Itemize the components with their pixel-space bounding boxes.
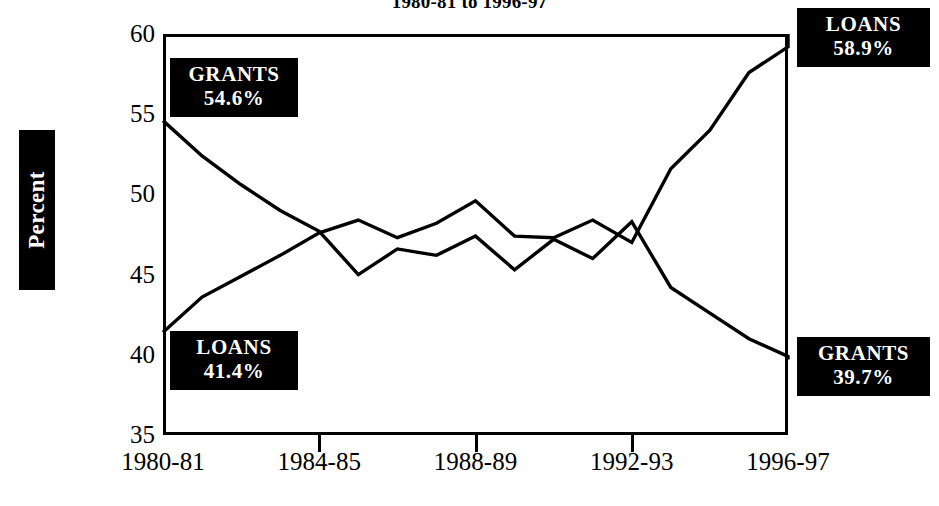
callout-grants-end: GRANTS 39.7% — [797, 337, 930, 396]
y-axis-tick-labels: 354045505560 — [95, 0, 155, 506]
y-axis-title-label: Percent — [24, 171, 50, 249]
callout-grants-start: GRANTS 54.6% — [170, 58, 298, 117]
chart-container: 1980-81 to 1996-97 Percent 354045505560 … — [0, 0, 939, 506]
x-tick-label-1996-97: 1996-97 — [713, 448, 863, 476]
callout-grants-end-name: GRANTS — [809, 342, 918, 366]
x-tick-label-1984-85: 1984-85 — [244, 448, 394, 476]
y-tick-45: 45 — [99, 262, 155, 287]
callout-loans-end-name: LOANS — [809, 13, 918, 37]
callout-grants-start-value: 54.6% — [182, 87, 286, 111]
callout-loans-end-value: 58.9% — [809, 37, 918, 61]
x-tick-label-1992-93: 1992-93 — [557, 448, 707, 476]
callout-grants-start-name: GRANTS — [182, 63, 286, 87]
callout-loans-start-name: LOANS — [182, 336, 286, 360]
y-tick-60: 60 — [99, 21, 155, 46]
callout-loans-start-value: 41.4% — [182, 360, 286, 384]
y-tick-55: 55 — [99, 101, 155, 126]
y-tick-35: 35 — [99, 422, 155, 447]
y-axis-title: Percent — [19, 130, 55, 290]
x-tick-mark-1988-89 — [475, 435, 478, 452]
x-tick-label-1988-89: 1988-89 — [401, 448, 551, 476]
callout-loans-start: LOANS 41.4% — [170, 331, 298, 390]
y-tick-50: 50 — [99, 181, 155, 206]
x-tick-label-1980-81: 1980-81 — [88, 448, 238, 476]
callout-loans-end: LOANS 58.9% — [797, 8, 930, 67]
y-tick-40: 40 — [99, 342, 155, 367]
x-tick-mark-1984-85 — [318, 435, 321, 452]
callout-grants-end-value: 39.7% — [809, 366, 918, 390]
x-tick-mark-1992-93 — [631, 435, 634, 452]
